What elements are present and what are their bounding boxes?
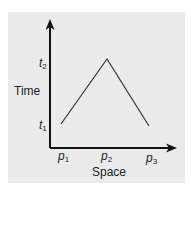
x-axis-label: Space (92, 166, 126, 178)
tick-p1: p1 (58, 150, 69, 164)
tick-p2: p2 (101, 150, 112, 164)
time-space-path (61, 59, 149, 126)
tick-t1: t1 (39, 119, 47, 133)
tick-t2: t2 (39, 57, 47, 71)
y-axis-label: Time (14, 85, 40, 97)
tick-p3: p3 (146, 152, 157, 166)
